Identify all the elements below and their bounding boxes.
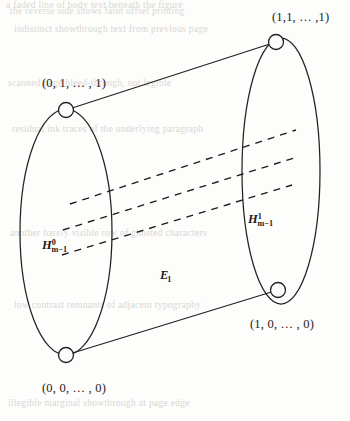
left-face-label-base: H — [42, 238, 52, 252]
body-label: E1 — [160, 268, 172, 283]
vertex-label-bottom-right: (1, 0, … , 0) — [250, 317, 314, 332]
vertex-node-bottom-right — [271, 283, 286, 298]
vertex-label-bottom-left: (0, 0, … , 0) — [42, 381, 106, 396]
right-face-label-base: H — [248, 212, 258, 226]
right-face-label-subscript: m−1 — [258, 219, 274, 228]
right-face-label: H1m−1 — [248, 212, 277, 227]
left-face-label-subscript: m−1 — [52, 245, 68, 254]
vertex-label-top-left: (0, 1, … , 1) — [42, 76, 106, 91]
vertex-label-top-right: (1,1, … ,1) — [272, 10, 329, 25]
left-face-label: H0m−1 — [42, 238, 71, 253]
cylinder-diagram — [0, 0, 350, 421]
vertex-node-bottom-left — [59, 348, 74, 363]
body-label-subscript: 1 — [167, 275, 171, 284]
left-face-ellipse — [20, 109, 112, 355]
figure-page: the reverse side shows faint offset prin… — [0, 0, 350, 421]
vertex-node-top-right — [269, 35, 284, 50]
dashed-generator-line — [70, 130, 296, 204]
vertex-node-top-left — [59, 103, 74, 118]
